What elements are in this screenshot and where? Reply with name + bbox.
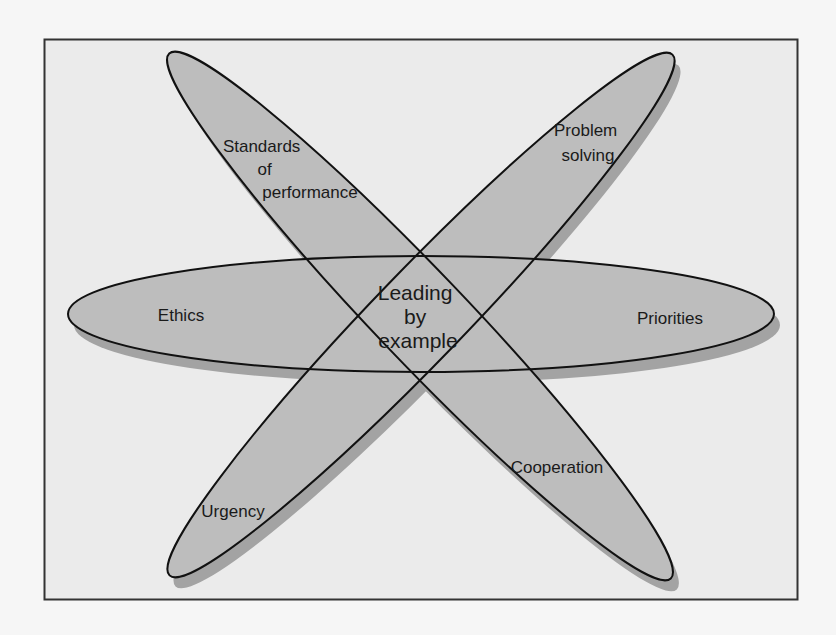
label-cooperation: Cooperation xyxy=(511,458,604,477)
leading-by-example-diagram: Standards of performance Problem solving… xyxy=(0,0,836,635)
label-ethics: Ethics xyxy=(158,306,204,325)
label-urgency: Urgency xyxy=(201,502,265,521)
label-priorities: Priorities xyxy=(637,309,703,328)
